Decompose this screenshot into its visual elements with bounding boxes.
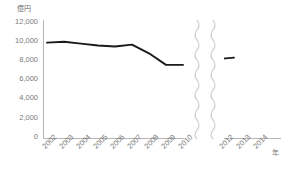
line-chart: 億円 12,000 10,000 8,000 6,000 4,000 2,000… xyxy=(0,0,287,172)
x-axis-unit-label: 年 xyxy=(272,147,279,157)
axis-break-marker xyxy=(184,20,224,139)
data-line-segment-left xyxy=(47,42,183,65)
